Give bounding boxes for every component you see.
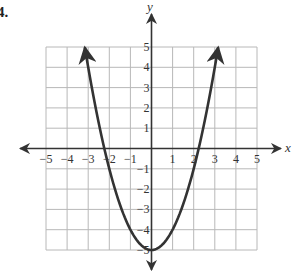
x-tick-label: −1 (124, 152, 137, 166)
x-tick-label: −5 (40, 152, 53, 166)
y-tick-label: 2 (144, 101, 150, 115)
y-tick-label: −1 (137, 162, 150, 176)
y-tick-label: 3 (144, 81, 150, 95)
y-tick-label: −2 (137, 182, 150, 196)
y-tick-label: −3 (137, 202, 150, 216)
y-tick-label: 1 (144, 121, 150, 135)
y-tick-label: 4 (144, 60, 150, 74)
x-tick-label: 5 (254, 152, 260, 166)
y-axis-label: y (145, 0, 153, 14)
x-tick-label: 1 (170, 152, 176, 166)
y-tick-label: −4 (137, 223, 150, 237)
axes (20, 14, 281, 270)
x-tick-label: −3 (82, 152, 95, 166)
x-tick-label: 3 (212, 152, 218, 166)
x-tick-label: −4 (61, 152, 74, 166)
parabola-chart: −5−4−3−2−11234554321−1−2−3−4−5 x y (0, 0, 293, 276)
x-axis-label: x (284, 140, 291, 155)
x-tick-label: 4 (233, 152, 239, 166)
y-tick-label: 5 (144, 40, 150, 54)
